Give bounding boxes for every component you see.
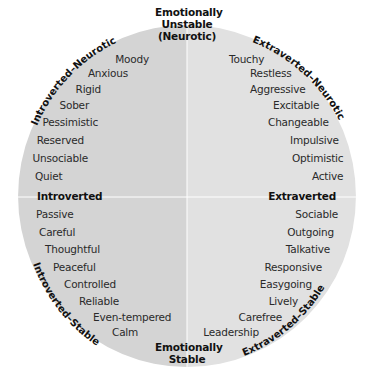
trait-carefree: Carefree [239,311,282,323]
trait-passive: Passive [36,208,73,220]
trait-easygoing: Easygoing [260,278,312,290]
pole-top-line1: Emotionally [155,6,219,18]
trait-changeable: Changeable [268,116,329,128]
pole-left: Introverted [37,190,102,202]
trait-peaceful: Peaceful [53,261,96,273]
pole-top-line2: Unstable [155,18,219,30]
pole-top-line3: (Neurotic) [155,30,219,42]
pole-bottom: Emotionally Stable [155,341,219,365]
pole-top: Emotionally Unstable (Neurotic) [155,6,219,42]
trait-optimistic: Optimistic [292,152,343,164]
trait-active: Active [312,170,343,182]
trait-calm: Calm [112,326,138,338]
pole-bottom-line1: Emotionally [155,341,219,353]
trait-controlled: Controlled [64,278,116,290]
trait-even-tempered: Even-tempered [93,311,171,323]
trait-leadership: Leadership [203,326,259,338]
trait-moody: Moody [115,53,149,65]
trait-rigid: Rigid [76,83,101,95]
trait-unsociable: Unsociable [33,152,88,164]
trait-outgoing: Outgoing [287,226,334,238]
pole-right: Extraverted [268,190,336,202]
trait-talkative: Talkative [286,243,330,255]
trait-restless: Restless [250,67,292,79]
trait-lively: Lively [269,295,298,307]
pole-bottom-line2: Stable [155,353,219,365]
trait-pessimistic: Pessimistic [43,116,99,128]
trait-reliable: Reliable [79,295,119,307]
trait-sober: Sober [59,99,89,111]
trait-excitable: Excitable [273,99,319,111]
trait-anxious: Anxious [88,67,128,79]
trait-touchy: Touchy [229,53,264,65]
trait-careful: Careful [39,226,75,238]
trait-responsive: Responsive [264,261,322,273]
trait-sociable: Sociable [295,208,338,220]
trait-quiet: Quiet [35,170,62,182]
trait-reserved: Reserved [37,134,84,146]
trait-thoughtful: Thoughtful [45,243,100,255]
trait-impulsive: Impulsive [290,134,339,146]
trait-aggressive: Aggressive [250,83,306,95]
